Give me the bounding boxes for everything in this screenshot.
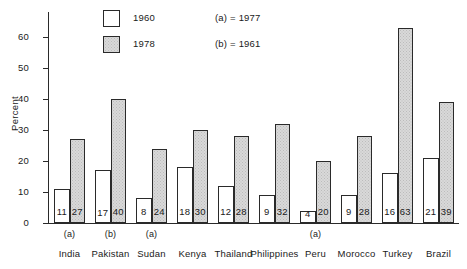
bar-india-1960: 11 — [54, 189, 70, 223]
bar-value-label: 27 — [71, 207, 85, 217]
bar-value-label: 63 — [399, 207, 413, 217]
bar-sudan-1978: 24 — [152, 149, 168, 223]
y-tick-label: 10 — [3, 186, 29, 197]
bar-pakistan-1960: 17 — [95, 170, 111, 223]
bar-philippines-1978: 32 — [275, 124, 291, 223]
category-marker-india: (a) — [49, 229, 90, 239]
bar-value-label: 30 — [194, 207, 208, 217]
bar-chart: 1960 (a) = 1977 1978 (b) = 1961 01020304… — [0, 0, 467, 269]
bar-brazil-1978: 39 — [439, 102, 455, 223]
y-tick-label: 50 — [3, 62, 29, 73]
bar-philippines-1960: 9 — [259, 195, 275, 223]
y-tick-label: 60 — [3, 31, 29, 42]
bar-value-label: 17 — [96, 208, 110, 218]
bar-turkey-1960: 16 — [382, 173, 398, 223]
bar-kenya-1978: 30 — [193, 130, 209, 223]
bar-sudan-1960: 8 — [136, 198, 152, 223]
bar-kenya-1960: 18 — [177, 167, 193, 223]
bar-pakistan-1978: 40 — [111, 99, 127, 223]
bar-value-label: 40 — [112, 207, 126, 217]
bar-value-label: 21 — [424, 207, 438, 217]
bar-morocco-1978: 28 — [357, 136, 373, 223]
bar-brazil-1960: 21 — [423, 158, 439, 223]
bar-peru-1978: 20 — [316, 161, 332, 223]
y-tick-mark — [43, 161, 49, 162]
bar-morocco-1960: 9 — [341, 195, 357, 223]
bar-thailand-1960: 12 — [218, 186, 234, 223]
bar-value-label: 9 — [342, 207, 356, 217]
bar-value-label: 28 — [358, 207, 372, 217]
bar-value-label: 20 — [317, 207, 331, 217]
bar-value-label: 12 — [219, 207, 233, 217]
bar-value-label: 24 — [153, 207, 167, 217]
bar-value-label: 28 — [235, 207, 249, 217]
y-tick-mark — [43, 223, 49, 224]
y-tick-mark — [43, 130, 49, 131]
plot-area: 0102030405060 Percent 112717408241830122… — [0, 0, 467, 269]
category-marker-peru: (a) — [295, 229, 336, 239]
bar-value-label: 18 — [178, 207, 192, 217]
x-axis-line — [48, 223, 459, 224]
y-tick-mark — [43, 37, 49, 38]
y-tick-label: 20 — [3, 155, 29, 166]
bar-turkey-1978: 63 — [398, 28, 414, 223]
y-tick-label: 0 — [3, 217, 29, 228]
y-tick-mark — [43, 99, 49, 100]
y-axis-title: Percent — [9, 84, 20, 144]
y-tick-mark — [43, 68, 49, 69]
bar-value-label: 16 — [383, 207, 397, 217]
bar-value-label: 4 — [301, 209, 315, 219]
bar-value-label: 39 — [440, 207, 454, 217]
y-tick-mark — [43, 192, 49, 193]
bar-value-label: 9 — [260, 207, 274, 217]
bar-value-label: 8 — [137, 207, 151, 217]
bar-peru-1960: 4 — [300, 211, 316, 223]
bar-thailand-1978: 28 — [234, 136, 250, 223]
bar-value-label: 11 — [55, 207, 69, 217]
bar-india-1978: 27 — [70, 139, 86, 223]
category-marker-pakistan: (b) — [90, 229, 131, 239]
category-label-brazil: Brazil — [410, 248, 467, 259]
bar-value-label: 32 — [276, 207, 290, 217]
category-marker-sudan: (a) — [131, 229, 172, 239]
